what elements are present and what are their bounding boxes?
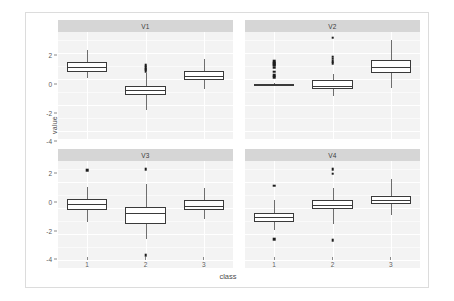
- facet-panel-v3: [58, 161, 233, 268]
- boxplot-median: [184, 206, 224, 207]
- y-axis-row-1: 20-2-4: [26, 32, 58, 150]
- y-tick-mark: [54, 112, 57, 113]
- x-tick-mark: [145, 257, 146, 260]
- x-tick-label: 2: [138, 261, 154, 268]
- facet-panel-v4: [245, 161, 420, 268]
- x-tick-mark: [390, 257, 391, 260]
- x-tick-label: 3: [196, 261, 212, 268]
- facet-panel-v1: [58, 32, 233, 139]
- boxplot-median: [371, 67, 411, 68]
- boxplot-v1-class3: [58, 32, 233, 139]
- facet-strip-v4: V4: [245, 149, 420, 161]
- facet-strip-label: V4: [328, 152, 337, 159]
- facet-v1: V1: [58, 20, 233, 139]
- y-tick-label: -4: [46, 256, 52, 263]
- x-tick-group-2: 123: [245, 257, 420, 271]
- y-tick-label: 2: [48, 52, 52, 59]
- y-axis-row-2: 20-2-4: [26, 150, 58, 268]
- x-axis-title: class: [26, 272, 430, 281]
- y-tick-mark: [54, 173, 57, 174]
- facet-grid: V1V2V3V4: [58, 20, 420, 268]
- y-tick-label: 0: [48, 198, 52, 205]
- chart-card: value class V1V2V3V4 123123 20-2-420-2-4: [25, 12, 429, 288]
- x-tick-label: 2: [325, 261, 341, 268]
- facet-v2: V2: [245, 20, 420, 139]
- facet-strip-label: V2: [328, 23, 337, 30]
- x-tick: 1: [266, 257, 282, 268]
- x-tick: 3: [196, 257, 212, 268]
- x-tick: 2: [138, 257, 154, 268]
- y-tick-mark: [54, 141, 57, 142]
- y-tick-mark: [54, 259, 57, 260]
- x-tick-mark: [274, 257, 275, 260]
- y-tick-mark: [54, 55, 57, 56]
- x-tick: 2: [325, 257, 341, 268]
- y-tick-label: -4: [46, 138, 52, 145]
- facet-panel-v2: [245, 32, 420, 139]
- x-axis: 123123: [58, 257, 420, 271]
- y-tick-mark: [54, 83, 57, 84]
- x-tick-mark: [332, 257, 333, 260]
- facet-v3: V3: [58, 149, 233, 268]
- x-tick-mark: [203, 257, 204, 260]
- boxplot-v4-class3: [245, 161, 420, 268]
- y-tick-mark: [54, 230, 57, 231]
- y-tick-mark: [54, 201, 57, 202]
- boxplot-v2-class3: [245, 32, 420, 139]
- facet-v4: V4: [245, 149, 420, 268]
- x-tick: 1: [79, 257, 95, 268]
- facet-strip-v3: V3: [58, 149, 233, 161]
- chart-root: value class V1V2V3V4 123123 20-2-420-2-4: [0, 0, 454, 301]
- x-tick-label: 1: [266, 261, 282, 268]
- x-tick-label: 1: [79, 261, 95, 268]
- x-tick-label: 3: [383, 261, 399, 268]
- facet-strip-label: V3: [141, 152, 150, 159]
- y-tick-label: -2: [46, 109, 52, 116]
- facet-strip-v2: V2: [245, 20, 420, 32]
- y-tick-label: -2: [46, 227, 52, 234]
- facet-strip-v1: V1: [58, 20, 233, 32]
- boxplot-v3-class3: [58, 161, 233, 268]
- x-tick: 3: [383, 257, 399, 268]
- boxplot-figure: value class V1V2V3V4 123123 20-2-420-2-4: [26, 13, 430, 289]
- boxplot-median: [184, 76, 224, 77]
- y-tick-label: 0: [48, 80, 52, 87]
- boxplot-median: [371, 200, 411, 201]
- x-tick-group-1: 123: [58, 257, 233, 271]
- boxplot-box: [184, 200, 224, 210]
- x-tick-mark: [87, 257, 88, 260]
- facet-strip-label: V1: [141, 23, 150, 30]
- y-tick-label: 2: [48, 170, 52, 177]
